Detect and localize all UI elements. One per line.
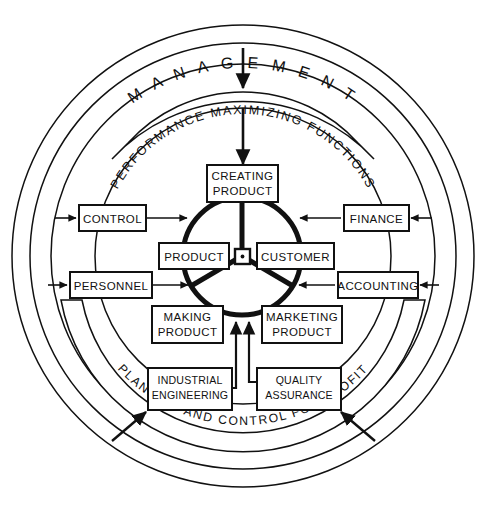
box-creating-product[interactable]: CREATING PRODUCT bbox=[207, 165, 278, 202]
planning-banner: PLANNING AND CONTROL FOR PROFIT bbox=[61, 300, 425, 452]
box-accounting-label: ACCOUNTING bbox=[337, 280, 418, 292]
box-marketing-product[interactable]: MARKETING PRODUCT bbox=[262, 306, 342, 343]
box-industrial-engineering-label-line-1: INDUSTRIAL bbox=[158, 374, 223, 386]
diagram-canvas: M A N A G E M E N T PERFORMANCE MAXIMIZI… bbox=[0, 0, 486, 506]
box-quality-assurance[interactable]: QUALITY ASSURANCE bbox=[257, 368, 341, 410]
box-quality-assurance-label-line-2: ASSURANCE bbox=[265, 389, 333, 401]
box-making-product[interactable]: MAKING PRODUCT bbox=[152, 306, 223, 343]
box-control[interactable]: CONTROL bbox=[79, 205, 146, 231]
management-wheel-diagram: M A N A G E M E N T PERFORMANCE MAXIMIZI… bbox=[0, 0, 486, 506]
box-finance-label: FINANCE bbox=[350, 213, 403, 225]
box-creating-product-label-line-2: PRODUCT bbox=[213, 185, 273, 197]
box-control-label: CONTROL bbox=[83, 213, 142, 225]
box-quality-assurance-label-line-1: QUALITY bbox=[276, 374, 323, 386]
box-personnel[interactable]: PERSONNEL bbox=[70, 272, 152, 298]
box-accounting[interactable]: ACCOUNTING bbox=[337, 272, 418, 298]
box-industrial-engineering-label-line-2: ENGINEERING bbox=[152, 389, 228, 401]
box-customer-label: CUSTOMER bbox=[261, 251, 330, 263]
box-making-product-label-line-1: MAKING bbox=[164, 311, 212, 323]
box-personnel-label: PERSONNEL bbox=[74, 280, 149, 292]
box-finance[interactable]: FINANCE bbox=[344, 205, 409, 231]
box-product[interactable]: PRODUCT bbox=[159, 243, 229, 269]
hub-dot-icon bbox=[241, 255, 245, 259]
center-hub bbox=[235, 249, 250, 264]
box-making-product-label-line-2: PRODUCT bbox=[158, 326, 218, 338]
box-industrial-engineering[interactable]: INDUSTRIAL ENGINEERING bbox=[148, 368, 232, 410]
box-creating-product-label-line-1: CREATING bbox=[212, 170, 274, 182]
box-marketing-product-label-line-2: PRODUCT bbox=[272, 326, 332, 338]
box-customer[interactable]: CUSTOMER bbox=[257, 243, 334, 269]
box-product-label: PRODUCT bbox=[164, 251, 224, 263]
box-marketing-product-label-line-1: MARKETING bbox=[266, 311, 338, 323]
